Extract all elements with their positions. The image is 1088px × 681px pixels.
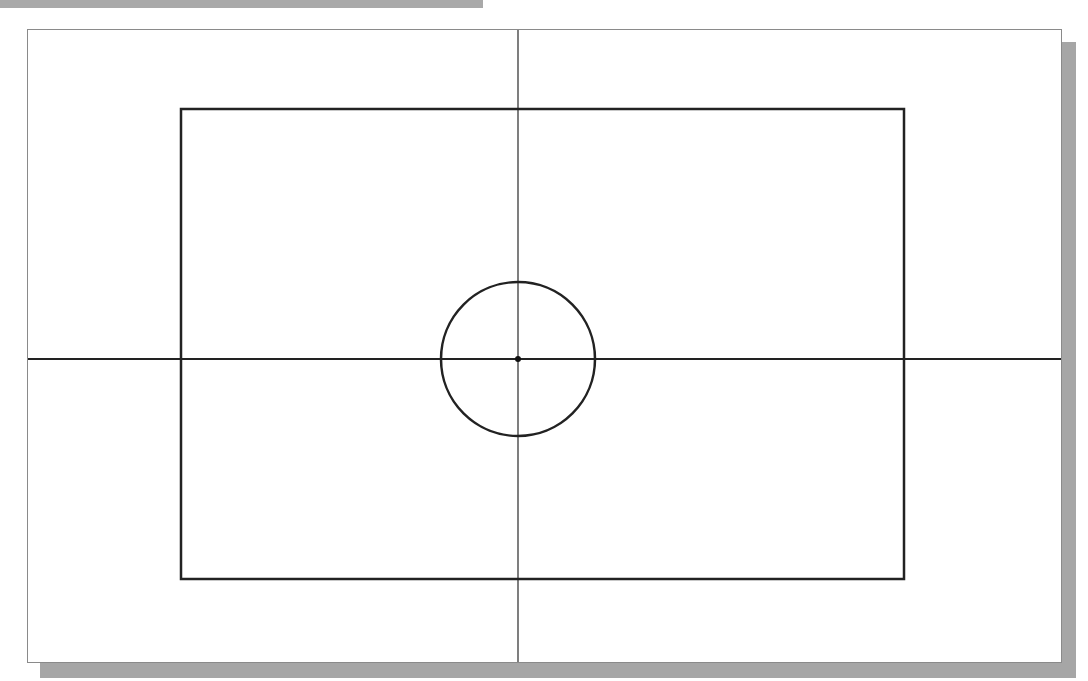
origin-point-icon[interactable] bbox=[515, 356, 521, 362]
sketch-rectangle[interactable] bbox=[181, 109, 904, 579]
drawing-stage bbox=[0, 0, 1088, 681]
sketch-canvas[interactable] bbox=[0, 0, 1088, 681]
